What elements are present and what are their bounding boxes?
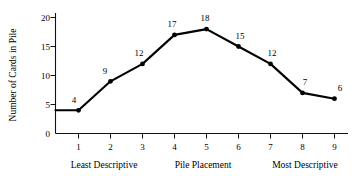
data-point-5: [204, 27, 209, 32]
x-tick-label-6: 6: [236, 142, 241, 152]
y-axis-label: Number of Cards in Pile: [8, 29, 18, 122]
x-tick-label-8: 8: [300, 142, 305, 152]
x-tick-label-3: 3: [140, 142, 145, 152]
data-point-9: [332, 96, 337, 101]
line-chart: Number of Cards in Pile 20 15 10 5 0 1 2…: [0, 0, 357, 176]
data-point-3: [140, 62, 145, 67]
y-tick-label-5: 5: [46, 100, 51, 110]
data-point-1: [76, 108, 81, 113]
data-label-8: 7: [303, 77, 308, 87]
y-tick-label-15: 15: [41, 42, 51, 52]
chart-canvas: Number of Cards in Pile 20 15 10 5 0 1 2…: [0, 0, 357, 176]
data-point-4: [172, 33, 177, 38]
data-point-8: [300, 91, 305, 96]
data-label-9: 6: [338, 83, 343, 93]
x-tick-label-5: 5: [204, 142, 209, 152]
data-point-6: [236, 44, 241, 49]
x-tick-label-7: 7: [268, 142, 273, 152]
y-axis-label-text: Number of Cards in Pile: [8, 29, 18, 122]
x-axis-right-anchor-label: Most Descriptive: [272, 160, 338, 170]
x-tick-label-9: 9: [332, 142, 337, 152]
data-label-4: 17: [168, 19, 178, 29]
data-label-5: 18: [201, 13, 211, 23]
y-tick-label-10: 10: [41, 71, 51, 81]
data-label-1: 4: [72, 95, 77, 105]
x-tick-label-1: 1: [76, 142, 81, 152]
data-label-6: 15: [236, 31, 246, 41]
data-label-2: 9: [103, 66, 108, 76]
x-tick-label-2: 2: [108, 142, 113, 152]
x-axis-left-anchor-label: Least Descriptive: [71, 160, 138, 170]
data-label-3: 12: [135, 48, 144, 58]
y-tick-label-0: 0: [46, 129, 51, 139]
x-tick-label-4: 4: [172, 142, 177, 152]
y-tick-label-20: 20: [41, 13, 51, 23]
data-point-2: [108, 79, 113, 84]
data-series-line: [56, 29, 335, 110]
data-point-7: [268, 62, 273, 67]
x-axis-title: Pile Placement: [175, 160, 232, 170]
data-label-7: 12: [268, 48, 277, 58]
